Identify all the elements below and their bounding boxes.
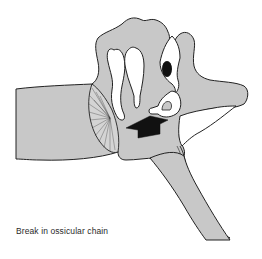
middle-ear-diagram	[0, 0, 262, 259]
round-window-icon	[162, 61, 172, 77]
figure-canvas: Break in ossicular chain	[0, 0, 262, 259]
figure-caption: Break in ossicular chain	[16, 226, 108, 236]
eustachian-tube	[150, 152, 230, 240]
